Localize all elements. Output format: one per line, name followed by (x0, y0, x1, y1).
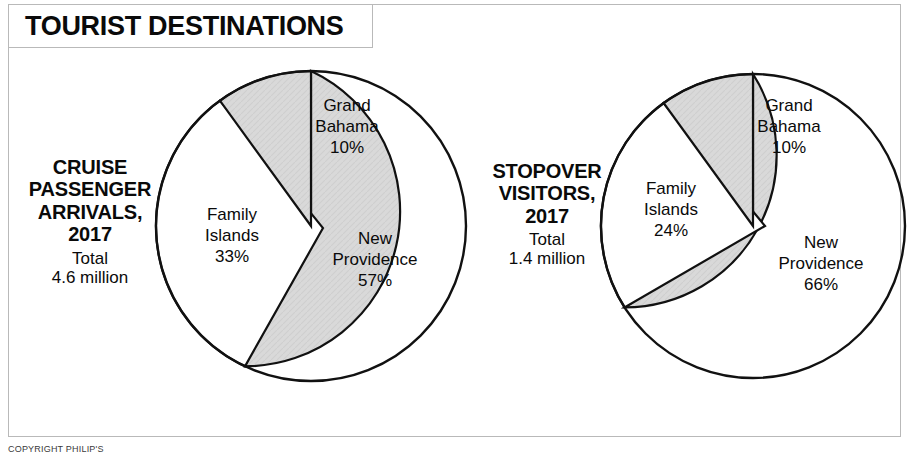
chart-caption-cruise: CRUISE PASSENGER ARRIVALS, 2017 Total 4.… (17, 156, 163, 287)
figure-frame: TOURIST DESTINATIONS CRUISE PASSENGER AR… (8, 4, 901, 437)
caption-line-4: 2017 (17, 223, 163, 245)
label-grand-bahama-pct: 10% (330, 138, 364, 157)
pie-chart-cruise: Grand Bahama 10% Family Islands 33% New … (151, 48, 471, 436)
chart-panel-stopover-visitors: STOPOVER VISITORS, 2017 Total 1.4 millio… (471, 48, 900, 436)
label-new-providence-pct: 57% (358, 271, 392, 290)
chart-panel-cruise-passenger-arrivals: CRUISE PASSENGER ARRIVALS, 2017 Total 4.… (9, 48, 471, 436)
pie-chart-stopover: Grand Bahama 10% Family Islands 24% New … (593, 48, 909, 436)
caption-line-1: CRUISE (17, 156, 163, 178)
label-new-providence-line2: Providence (332, 250, 417, 269)
label-family-islands-line2: Islands (644, 200, 698, 219)
total-label: Total (17, 249, 163, 268)
pie-svg-cruise: Grand Bahama 10% Family Islands 33% New … (151, 48, 471, 436)
label-new-providence-line1: New (804, 233, 839, 252)
label-grand-bahama-line2: Bahama (757, 117, 821, 136)
label-grand-bahama-line1: Grand (323, 96, 370, 115)
label-new-providence-line2: Providence (778, 254, 863, 273)
label-grand-bahama-pct: 10% (772, 138, 806, 157)
caption-line-3: ARRIVALS, (17, 201, 163, 223)
pie-svg-stopover: Grand Bahama 10% Family Islands 24% New … (593, 48, 909, 436)
copyright-notice: COPYRIGHT PHILIP'S (8, 444, 104, 454)
label-new-providence-pct: 66% (804, 275, 838, 294)
label-family-islands-line2: Islands (205, 226, 259, 245)
label-grand-bahama-line2: Bahama (315, 117, 379, 136)
title-box: TOURIST DESTINATIONS (9, 5, 373, 48)
label-grand-bahama-line1: Grand (765, 96, 812, 115)
label-family-islands-line1: Family (207, 205, 258, 224)
label-family-islands-pct: 24% (654, 221, 688, 240)
caption-line-2: PASSENGER (17, 178, 163, 200)
page-title: TOURIST DESTINATIONS (9, 11, 344, 42)
label-family-islands-pct: 33% (215, 247, 249, 266)
charts-area: CRUISE PASSENGER ARRIVALS, 2017 Total 4.… (9, 48, 900, 436)
total-value: 4.6 million (17, 268, 163, 287)
label-family-islands-line1: Family (646, 179, 697, 198)
label-new-providence-line1: New (358, 229, 393, 248)
